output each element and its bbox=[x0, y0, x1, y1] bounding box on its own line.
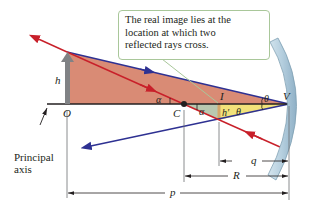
concave-mirror bbox=[268, 38, 297, 180]
label-O: O bbox=[63, 108, 71, 119]
label-C: C bbox=[173, 108, 180, 119]
callout-line-1: The real image lies at the bbox=[125, 14, 263, 27]
callout-line-3: reflected rays cross. bbox=[125, 39, 263, 52]
principal-axis-pointer bbox=[40, 108, 47, 125]
callout-line-2: location at which two bbox=[125, 27, 263, 40]
label-h-prime: h′ bbox=[222, 107, 229, 118]
red-ray-arrow-2 bbox=[249, 133, 262, 139]
label-q: q bbox=[251, 155, 257, 166]
label-p: p bbox=[170, 187, 176, 198]
label-h: h bbox=[55, 75, 61, 86]
label-alpha-upper: α bbox=[156, 94, 161, 105]
label-V: V bbox=[283, 91, 290, 102]
label-theta-lower: θ bbox=[236, 106, 241, 117]
blue-ray-reflected bbox=[86, 104, 289, 147]
label-R: R bbox=[233, 170, 240, 181]
principal-axis-label: Principal axis bbox=[14, 151, 54, 175]
label-I: I bbox=[220, 91, 224, 102]
principal-axis-label-line-2: axis bbox=[14, 163, 54, 175]
label-theta-upper: θ bbox=[264, 93, 269, 104]
object-arrow-shaft bbox=[65, 60, 70, 104]
center-of-curvature-dot bbox=[181, 101, 187, 107]
red-ray-reflected-out bbox=[34, 37, 67, 52]
label-alpha-lower: α bbox=[199, 106, 204, 117]
principal-axis-label-line-1: Principal bbox=[14, 151, 54, 163]
callout-box: The real image lies at the location at w… bbox=[118, 10, 270, 60]
